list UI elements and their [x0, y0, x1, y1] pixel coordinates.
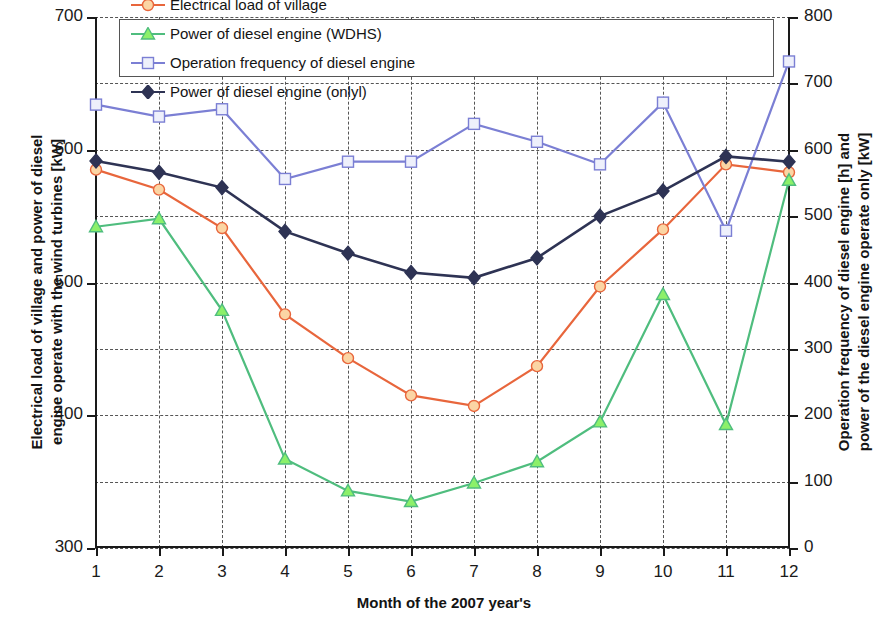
data-point-marker — [784, 56, 795, 67]
data-point-marker — [143, 57, 154, 68]
y-tick-right — [790, 150, 798, 152]
y-axis-left-tick-label: 500 — [3, 272, 83, 292]
legend-swatch-diamond-icon — [130, 85, 166, 99]
y-tick-right — [790, 482, 798, 484]
legend-item[interactable]: Electrical load of village — [120, 0, 464, 19]
legend-swatch-triangle-icon — [130, 27, 166, 41]
x-tick — [537, 548, 539, 556]
data-point-marker — [532, 361, 543, 372]
data-point-marker — [532, 136, 543, 147]
x-axis-tick-label: 12 — [769, 562, 809, 582]
data-point-marker — [531, 455, 544, 467]
y-axis-right-tick-label: 0 — [804, 537, 884, 557]
data-point-marker — [342, 484, 355, 496]
data-point-marker — [721, 225, 732, 236]
x-axis-tick-label: 3 — [202, 562, 242, 582]
y-tick-right — [790, 349, 798, 351]
data-point-marker — [658, 97, 669, 108]
data-point-marker — [594, 209, 606, 223]
data-point-marker — [154, 184, 165, 195]
data-point-marker — [342, 246, 354, 260]
y-axis-left-tick-label: 700 — [3, 6, 83, 26]
x-tick — [285, 548, 287, 556]
legend-item-label: Power of diesel engine (WDHS) — [170, 25, 382, 42]
y-tick-right — [790, 548, 798, 550]
data-point-marker — [280, 309, 291, 320]
x-axis-tick-label: 2 — [139, 562, 179, 582]
y-axis-right-tick-label: 800 — [804, 6, 884, 26]
x-tick — [663, 548, 665, 556]
y-tick-right — [790, 216, 798, 218]
data-point-marker — [406, 156, 417, 167]
y-axis-right-tick-label: 700 — [804, 72, 884, 92]
data-point-marker — [657, 184, 669, 198]
x-tick — [222, 548, 224, 556]
x-axis-tick-label: 5 — [328, 562, 368, 582]
x-tick — [348, 548, 350, 556]
y-tick-right — [790, 17, 798, 19]
data-point-marker — [143, 0, 154, 10]
data-point-marker — [216, 181, 228, 195]
x-axis-tick-label: 1 — [76, 562, 116, 582]
x-axis-tick-label: 6 — [391, 562, 431, 582]
data-point-marker — [595, 159, 606, 170]
x-axis-tick-label: 8 — [517, 562, 557, 582]
legend-item-label: Electrical load of village — [170, 0, 327, 13]
x-axis-tick-label: 9 — [580, 562, 620, 582]
data-point-marker — [469, 118, 480, 129]
x-tick — [474, 548, 476, 556]
x-axis-tick-label: 4 — [265, 562, 305, 582]
y-tick-right — [790, 83, 798, 85]
series-power-of-diesel-engine-wdhs — [90, 174, 796, 507]
x-tick — [600, 548, 602, 556]
data-point-marker — [280, 173, 291, 184]
chart-figure: Electrical load of village and power of … — [0, 0, 888, 620]
legend: Electrical load of villagePower of diese… — [119, 19, 774, 77]
data-point-marker — [343, 353, 354, 364]
legend-item[interactable]: Power of diesel engine (onlyl) — [120, 77, 430, 106]
data-point-marker — [657, 288, 670, 300]
y-tick-left — [87, 415, 95, 417]
x-tick — [159, 548, 161, 556]
gridline-horizontal — [95, 548, 790, 549]
data-point-marker — [595, 281, 606, 292]
data-point-marker — [279, 453, 292, 465]
x-tick — [411, 548, 413, 556]
legend-item[interactable]: Operation frequency of diesel engine — [120, 48, 464, 77]
legend-swatch-square-icon — [130, 56, 166, 70]
y-tick-left — [87, 150, 95, 152]
series-line — [96, 156, 789, 277]
series-line — [96, 180, 789, 501]
series-electrical-load-of-village — [91, 159, 795, 412]
x-axis-tick-label: 11 — [706, 562, 746, 582]
data-point-marker — [153, 165, 165, 179]
data-point-marker — [594, 415, 607, 427]
y-axis-right-tick-label: 300 — [804, 338, 884, 358]
data-point-marker — [469, 400, 480, 411]
y-axis-right-tick-label: 600 — [804, 139, 884, 159]
legend-swatch-circle-icon — [130, 0, 166, 12]
data-point-marker — [217, 223, 228, 234]
y-tick-left — [87, 283, 95, 285]
data-point-marker — [279, 224, 291, 238]
y-tick-right — [790, 415, 798, 417]
legend-item-label: Power of diesel engine (onlyl) — [170, 83, 367, 100]
x-tick — [96, 548, 98, 556]
data-point-marker — [658, 224, 669, 235]
data-point-marker — [154, 111, 165, 122]
y-axis-right-tick-label: 500 — [804, 205, 884, 225]
data-point-marker — [142, 85, 154, 99]
data-point-marker — [91, 99, 102, 110]
legend-item[interactable]: Power of diesel engine (WDHS) — [120, 19, 430, 48]
y-tick-right — [790, 283, 798, 285]
x-axis-tick-label: 7 — [454, 562, 494, 582]
data-point-marker — [468, 271, 480, 285]
series-power-of-diesel-engine-onlyl — [90, 149, 795, 284]
y-axis-right-tick-label: 200 — [804, 404, 884, 424]
y-tick-left — [87, 548, 95, 550]
y-axis-left-tick-label: 600 — [3, 139, 83, 159]
x-axis-title: Month of the 2007 year's — [0, 594, 888, 611]
y-axis-left-tick-label: 400 — [3, 404, 83, 424]
data-point-marker — [405, 266, 417, 280]
data-point-marker — [406, 390, 417, 401]
